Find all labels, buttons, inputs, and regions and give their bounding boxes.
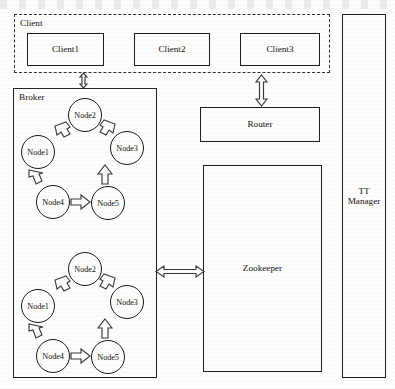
ring-upper-arrow-node3-to-node2	[98, 118, 118, 138]
connector-broker-zookeeper-double-arrow	[155, 263, 205, 280]
ring-lower-arrow-node4-to-node5	[70, 348, 92, 365]
ring-upper-node-1[interactable]: Node1	[21, 135, 55, 169]
ring-lower-arrow-node3-to-node2	[98, 272, 118, 292]
connector-client1-broker-double-arrow	[77, 72, 90, 89]
ring-lower-node-4[interactable]: Node4	[36, 339, 70, 373]
diagram-canvas: Client Client1 Client2 Client3 Broker No…	[0, 0, 395, 389]
tt-manager-label: TT Manager	[342, 14, 386, 378]
connector-client3-router-double-arrow	[253, 74, 270, 107]
ring-lower-arrow-node5-to-node3	[97, 318, 115, 340]
ring-upper-arrow-node2-to-node1	[52, 120, 72, 140]
client-box-3-label: Client3	[240, 33, 320, 66]
ring-upper-arrow-node4-to-node5	[70, 194, 92, 211]
ring-upper-arrow-node5-to-node3	[97, 164, 115, 186]
ring-upper-arrow-node1-to-node4	[27, 168, 45, 188]
client-group-label: Client	[20, 19, 42, 28]
router-label: Router	[200, 107, 320, 142]
zookeeper-label: Zookeeper	[203, 165, 322, 372]
ring-lower-node-2[interactable]: Node2	[68, 252, 102, 286]
ring-upper-node-4[interactable]: Node4	[36, 185, 70, 219]
scan-noise-band	[0, 0, 395, 9]
ring-lower-node-5[interactable]: Node5	[91, 340, 125, 374]
ring-upper-node-5[interactable]: Node5	[91, 186, 125, 220]
client-box-2-label: Client2	[134, 33, 210, 66]
ring-upper-node-2[interactable]: Node2	[68, 98, 102, 132]
broker-group-label: Broker	[19, 93, 45, 102]
ring-lower-node-1[interactable]: Node1	[21, 289, 55, 323]
ring-lower-arrow-node2-to-node1	[52, 274, 72, 294]
client-box-1-label: Client1	[27, 33, 104, 66]
ring-lower-arrow-node1-to-node4	[27, 322, 45, 342]
